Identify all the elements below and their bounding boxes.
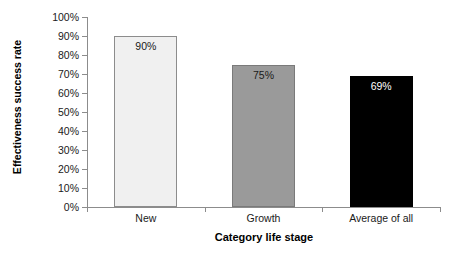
bar-value-label: 69% bbox=[351, 81, 412, 92]
y-axis-tick-label: 50% bbox=[58, 107, 79, 118]
x-axis-tick bbox=[440, 207, 441, 212]
y-axis-tick bbox=[82, 17, 87, 18]
plot-area: 0%10%20%30%40%50%60%70%80%90%100%90%75%6… bbox=[87, 17, 440, 207]
x-axis-category-label: Growth bbox=[247, 213, 281, 224]
y-axis-title: Effectiveness success rate bbox=[9, 12, 25, 202]
x-axis-line bbox=[87, 207, 441, 208]
y-axis-tick-label: 60% bbox=[58, 88, 79, 99]
y-axis-tick-label: 10% bbox=[58, 183, 79, 194]
bar-value-label: 75% bbox=[233, 70, 294, 81]
x-axis-tick bbox=[205, 207, 206, 212]
bar-value-label: 90% bbox=[115, 41, 176, 52]
x-axis-tick-origin bbox=[87, 207, 88, 212]
y-axis-tick bbox=[82, 131, 87, 132]
y-axis-tick bbox=[82, 36, 87, 37]
bar-growth: 75% bbox=[232, 65, 295, 208]
y-axis-tick-label: 0% bbox=[64, 202, 79, 213]
y-axis-tick bbox=[82, 188, 87, 189]
bar-chart: Effectiveness success rate 0%10%20%30%40… bbox=[0, 0, 452, 253]
x-axis-tick bbox=[322, 207, 323, 212]
y-axis-tick bbox=[82, 150, 87, 151]
y-axis-tick-label: 70% bbox=[58, 69, 79, 80]
x-axis-title: Category life stage bbox=[87, 231, 441, 244]
y-axis-tick-label: 30% bbox=[58, 145, 79, 156]
y-axis-tick-label: 80% bbox=[58, 50, 79, 61]
y-axis-tick bbox=[82, 93, 87, 94]
y-axis-tick-label: 100% bbox=[52, 12, 79, 23]
bar-average-of-all: 69% bbox=[350, 76, 413, 207]
y-axis-tick bbox=[82, 55, 87, 56]
y-axis-tick-label: 20% bbox=[58, 164, 79, 175]
x-axis-category-label: New bbox=[135, 213, 156, 224]
y-axis-tick-label: 40% bbox=[58, 126, 79, 137]
y-axis-tick-label: 90% bbox=[58, 31, 79, 42]
x-axis-category-label: Average of all bbox=[349, 213, 413, 224]
y-axis-tick bbox=[82, 74, 87, 75]
bar-new: 90% bbox=[114, 36, 177, 207]
y-axis-tick bbox=[82, 169, 87, 170]
y-axis-tick bbox=[82, 112, 87, 113]
